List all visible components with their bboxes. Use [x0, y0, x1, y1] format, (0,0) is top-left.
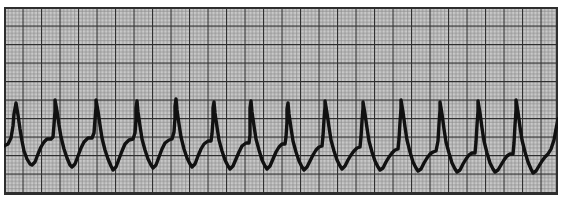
grid-lines — [4, 7, 558, 195]
ecg-rhythm-strip — [4, 7, 558, 195]
ecg-graph-paper-grid — [4, 7, 558, 195]
ecg-screenshot — [0, 0, 563, 202]
